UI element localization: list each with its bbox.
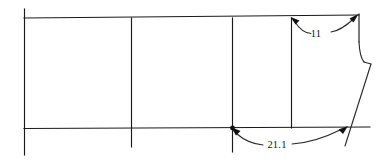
dimension-label-lower: 21.1 [267, 139, 286, 150]
bottom-edge-line [24, 127, 370, 129]
dimension-leader-lower-right [292, 130, 340, 144]
dimension-leader-lower-left [237, 134, 263, 145]
technical-drawing-canvas: 11 21.1 [0, 0, 383, 162]
dimension-label-upper: 11 [311, 28, 322, 39]
slanted-edge-line [345, 64, 371, 146]
top-edge-line [24, 15, 359, 18]
fillet-curve [359, 42, 364, 62]
drawing-svg: 11 21.1 [0, 0, 383, 162]
ledge-segment [364, 62, 371, 64]
dimension-leader-upper-left [295, 22, 311, 34]
dimension-leader-upper-right [331, 19, 354, 33]
